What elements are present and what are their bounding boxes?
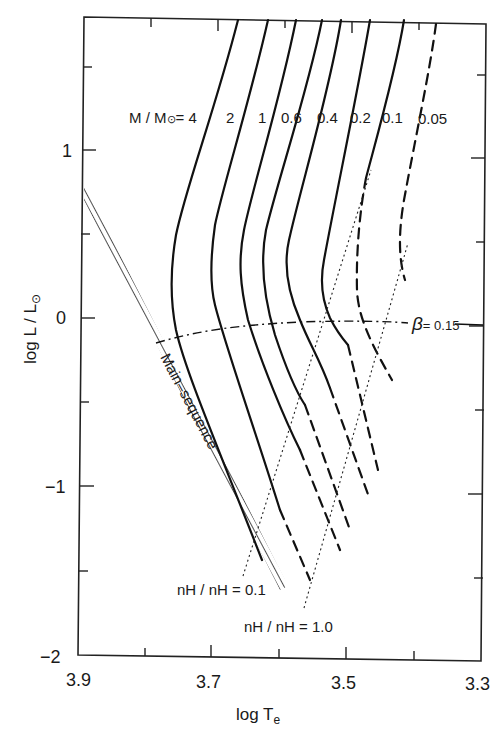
beta-label: β= 0.15: [411, 313, 459, 334]
x-tick-3-3: 3.3: [465, 674, 490, 694]
mass-label-1: 1: [258, 109, 266, 126]
mass-tracks: [172, 20, 437, 580]
nh-label-0-1: nH / nH = 0.1: [177, 581, 266, 598]
mass-label-4: M / M⊙= 4: [129, 109, 197, 126]
mass-labels: M / M⊙= 4 2 1 0.6 0.4 0.2 0.1 0.05: [129, 109, 447, 127]
svg-text:log L / L⊙: log L / L⊙: [21, 294, 43, 364]
mass-label-0-1: 0.1: [382, 109, 403, 126]
track-m0-05-dashed: [400, 24, 436, 280]
track-m0-1-dashed: [357, 178, 392, 380]
mass-label-0-05: 0.05: [418, 110, 447, 127]
x-tick-labels: 3.9 3.7 3.5 3.3: [66, 670, 490, 694]
svg-text:log Te: log Te: [236, 705, 281, 727]
hr-diagram: 1 0 −1 −2 3.9 3.7 3.5 3.3 log Te log L /…: [0, 0, 503, 729]
track-m2: [211, 20, 280, 510]
track-m0-4: [287, 20, 341, 388]
x-tick-3-7: 3.7: [196, 672, 221, 692]
track-m0-2: [322, 20, 370, 345]
nh-line-0-1: [243, 170, 371, 576]
nh-lines: [243, 170, 408, 608]
y-tick-minus1: −1: [45, 477, 66, 497]
track-m2-dashed: [280, 510, 310, 580]
mass-label-2: 2: [226, 109, 234, 126]
beta-line: β= 0.15: [156, 313, 483, 343]
x-tick-3-9: 3.9: [66, 670, 91, 690]
track-m0-4-dashed: [330, 388, 370, 500]
track-m1-dashed: [300, 450, 340, 550]
y-tick-minus2: −2: [40, 647, 61, 667]
mass-label-0-4: 0.4: [317, 109, 338, 126]
y-tick-1: 1: [62, 141, 72, 161]
x-axis-title: log Te: [236, 705, 281, 727]
y-tick-0: 0: [56, 308, 66, 328]
y-axis-title: log L / L⊙: [21, 294, 43, 364]
nh-label-1-0: nH / nH = 1.0: [244, 618, 333, 635]
y-tick-labels: 1 0 −1 −2: [40, 141, 72, 667]
x-tick-3-5: 3.5: [331, 673, 356, 693]
track-m0-1: [366, 20, 404, 178]
nh-line-1-0: [304, 243, 408, 608]
mass-label-0-6: 0.6: [281, 109, 302, 126]
mass-label-0-2: 0.2: [350, 109, 371, 126]
